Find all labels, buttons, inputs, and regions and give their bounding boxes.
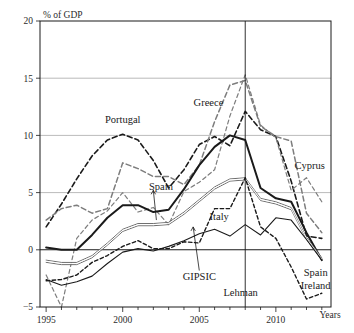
y-tick-label: 0	[28, 245, 33, 255]
series-label-lehman: Lehman	[223, 287, 258, 298]
series-label-cyprus: Cyprus	[294, 160, 324, 171]
y-tick-label: −5	[23, 302, 33, 312]
y-tick-label: 20	[24, 16, 34, 26]
x-axis-title: Years	[319, 310, 341, 320]
plot-frame	[40, 21, 331, 307]
gipsic-current-account-chart: −5051015201995200020052010 PortugalGreec…	[0, 0, 354, 333]
series-line-gipsic-core	[46, 179, 322, 264]
x-tick-label: 2000	[113, 315, 132, 325]
y-tick-label: 15	[24, 74, 34, 84]
series-label-italy: Italy	[210, 211, 230, 222]
y-axis-title: % of GDP	[43, 10, 83, 20]
chart-container: −5051015201995200020052010 PortugalGreec…	[0, 0, 354, 333]
series-line-greece	[46, 80, 322, 232]
x-tick-label: 1995	[37, 315, 56, 325]
italy-leader-arrow	[153, 190, 156, 220]
series-label-ireland: Ireland	[301, 280, 331, 291]
series-label-portugal: Portugal	[105, 114, 141, 125]
x-tick-label: 2010	[266, 315, 285, 325]
y-tick-label: 5	[28, 188, 33, 198]
x-tick-label: 2005	[190, 315, 209, 325]
grid-layer	[40, 78, 331, 250]
gipsic-leader-arrow	[193, 227, 199, 271]
annotation-layer: PortugalGreeceSpainCyprusItalyGIPSICLehm…	[105, 97, 331, 298]
series-label-spain: Spain	[304, 267, 329, 278]
series-label-gipsic: GIPSIC	[183, 271, 216, 282]
axis-layer: −5051015201995200020052010	[23, 16, 331, 325]
series-line-portugal	[46, 111, 322, 238]
series-label-greece: Greece	[194, 97, 224, 108]
y-tick-label: 10	[24, 131, 34, 141]
